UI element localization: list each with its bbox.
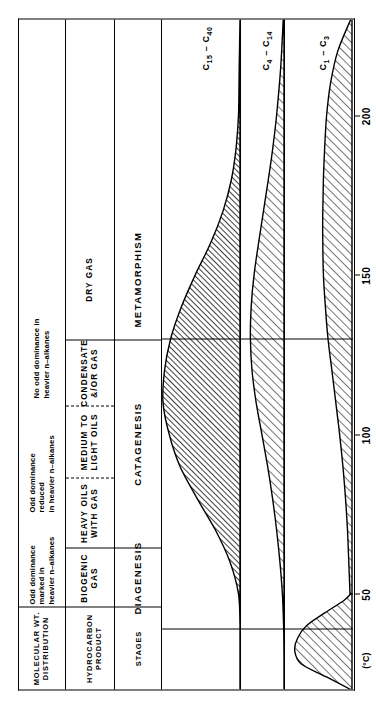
- cell-odd-dominance-reduced: Odd dominance reduced in heavier n–alkan…: [19, 423, 65, 515]
- cell-dry-gas: DRY GAS: [66, 219, 114, 339]
- axis-tick-label: 200: [361, 107, 372, 125]
- cell-text: DRY GAS: [85, 257, 95, 302]
- axis-tick: [355, 434, 360, 435]
- cell-text: BIOGENIC GAS: [80, 548, 100, 607]
- cell-text: Odd dominance reduced in heavier n–alkan…: [28, 423, 57, 512]
- axis-tick: [355, 115, 360, 116]
- series-label-text2: C: [261, 39, 271, 46]
- axis-unit-label: (°C): [361, 652, 371, 669]
- series-label-text: C: [261, 63, 271, 70]
- cell-text: Odd dominance marked in heavier n–alkane…: [28, 515, 57, 604]
- panel-c4-c14: [241, 19, 285, 689]
- panel-c1-c3: [285, 19, 353, 689]
- cell-odd-dominance-marked: Odd dominance marked in heavier n–alkane…: [19, 515, 65, 607]
- table-row-molecular-wt: MOLECULAR WT. DISTRIBUTION Odd dominance…: [19, 19, 66, 689]
- row-header-molecular-wt: MOLECULAR WT. DISTRIBUTION: [32, 607, 50, 689]
- series-label-dash: –: [261, 47, 271, 59]
- series-label-sub: 1: [323, 58, 330, 63]
- generation-curves-plot: [161, 18, 355, 690]
- cell-diagenesis: DIAGENESIS: [115, 547, 161, 607]
- cell-text: METAMORPHISM: [133, 231, 143, 327]
- series-label-sub: 15: [206, 54, 213, 63]
- cell-condensate-and-or-gas: CONDENSATE &/OR GAS: [66, 339, 114, 405]
- panel-c15-c40: [161, 19, 241, 689]
- cell-no-odd-dominance: No odd dominance in heavier n–alkanes: [19, 301, 65, 401]
- table-row-stages: STAGES DIAGENESIS CATAGENESIS METAMORPHI…: [115, 19, 162, 689]
- cell-metamorphism: METAMORPHISM: [115, 219, 161, 339]
- series-label-c4-c14: C4 – C14: [261, 30, 273, 70]
- cell-text: MEDIUM TO LIGHT OILS: [80, 406, 100, 477]
- axis-tick-label: 150: [361, 266, 372, 284]
- curve-c1-c3: [285, 19, 353, 689]
- curve-c4-c14: [241, 19, 285, 689]
- curve-c15-c40: [161, 19, 241, 689]
- series-label-text: C: [318, 63, 328, 70]
- cell-biogenic-gas: BIOGENIC GAS: [66, 547, 114, 607]
- cell-text: CATAGENESIS: [133, 402, 143, 485]
- series-label-sub: 4: [266, 58, 273, 63]
- series-label-sub2: 14: [266, 30, 273, 39]
- series-label-sub2: 40: [206, 26, 213, 35]
- table-row-hydrocarbon-product: HYDROCARBON PRODUCT BIOGENIC GAS HEAVY O…: [66, 19, 115, 689]
- series-label-c1-c3: C1 – C3: [318, 35, 330, 70]
- axis-tick-label: 100: [361, 426, 372, 444]
- series-label-text2: C: [318, 39, 328, 46]
- temperature-axis: (°C) 50100150200: [355, 18, 376, 690]
- row-header-hydrocarbon-product: HYDROCARBON PRODUCT: [85, 607, 103, 689]
- cell-text: No odd dominance in heavier n–alkanes: [32, 318, 51, 398]
- series-label-text2: C: [201, 35, 211, 42]
- series-label-c15-c40: C15 – C40: [201, 26, 213, 70]
- axis-tick: [355, 593, 360, 594]
- axis-tick-label: 50: [361, 588, 372, 600]
- cell-text: HEAVY OILS WITH GAS: [80, 478, 100, 547]
- series-label-dash: –: [318, 47, 328, 59]
- series-label-text: C: [201, 63, 211, 70]
- series-label-sub2: 3: [323, 35, 330, 40]
- cell-heavy-oils-with-gas: HEAVY OILS WITH GAS: [66, 477, 114, 547]
- stage-table: MOLECULAR WT. DISTRIBUTION Odd dominance…: [18, 18, 161, 690]
- cell-text: CONDENSATE &/OR GAS: [80, 339, 100, 407]
- hydrocarbon-generation-figure: MOLECULAR WT. DISTRIBUTION Odd dominance…: [18, 18, 355, 690]
- cell-medium-to-light-oils: MEDIUM TO LIGHT OILS: [66, 405, 114, 477]
- series-label-dash: –: [201, 42, 211, 54]
- row-header-stages: STAGES: [134, 607, 143, 689]
- axis-tick: [355, 274, 360, 275]
- cell-text: DIAGENESIS: [133, 541, 143, 614]
- cell-catagenesis: CATAGENESIS: [115, 339, 161, 547]
